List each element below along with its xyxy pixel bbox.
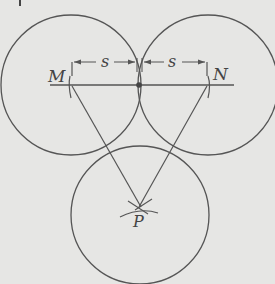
arc-M xyxy=(69,76,71,98)
label-M: M xyxy=(47,66,66,86)
label-s-left: s xyxy=(101,52,109,71)
arc-N xyxy=(208,76,210,98)
construction-diagram: M N P s s xyxy=(0,0,275,284)
label-N: N xyxy=(212,64,229,84)
diagram-canvas: M N P s s xyxy=(0,0,275,284)
label-P: P xyxy=(132,212,144,231)
midpoint-dot xyxy=(136,82,142,88)
label-s-right: s xyxy=(168,52,176,71)
